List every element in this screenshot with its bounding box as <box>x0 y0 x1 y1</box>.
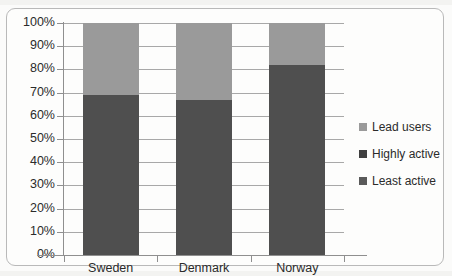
y-axis-tick <box>57 162 64 163</box>
segment-active-users <box>83 95 139 255</box>
segment-lead-users <box>269 23 325 65</box>
legend-item: Highly active <box>359 140 452 167</box>
legend-label-lead-users: Lead users <box>372 120 431 134</box>
y-axis-tick-label: 50% <box>9 132 55 145</box>
y-axis-tick <box>57 69 64 70</box>
bar-sweden <box>83 23 139 255</box>
y-axis-tick-label: 40% <box>9 155 55 168</box>
y-axis-tick-label: 60% <box>9 109 55 122</box>
y-axis-tick <box>57 139 64 140</box>
segment-active-users <box>176 100 232 255</box>
y-axis-tick <box>57 46 64 47</box>
y-axis-tick <box>57 232 64 233</box>
scan-artifact-top <box>0 0 452 5</box>
chart-page: 0%10%20%30%40%50%60%70%80%90%100% Sweden… <box>0 0 452 276</box>
x-axis-label-norway: Norway <box>242 262 352 276</box>
x-axis-tick <box>251 256 252 262</box>
y-axis-tick <box>57 93 64 94</box>
x-axis-tick <box>64 256 65 262</box>
chart-legend: Lead users Highly active Least active <box>359 113 452 194</box>
chart-frame: 0%10%20%30%40%50%60%70%80%90%100% Sweden… <box>6 8 444 266</box>
legend-label-least-active: Least active <box>372 174 436 188</box>
segment-lead-users <box>83 23 139 95</box>
y-axis-tick-label: 80% <box>9 62 55 75</box>
legend-swatch-highly-active <box>359 150 367 158</box>
legend-item: Lead users <box>359 113 452 140</box>
x-axis-line <box>37 255 367 256</box>
bar-norway <box>269 23 325 255</box>
y-axis-tick-label: 30% <box>9 178 55 191</box>
y-axis-tick <box>57 255 64 256</box>
x-axis-tick <box>344 256 345 262</box>
y-axis-tick <box>57 116 64 117</box>
legend-label-highly-active: Highly active <box>372 147 440 161</box>
segment-lead-users <box>176 23 232 100</box>
x-axis-tick <box>157 256 158 262</box>
y-axis-tick-label: 100% <box>9 16 55 29</box>
legend-swatch-least-active <box>359 177 367 185</box>
legend-swatch-lead-users <box>359 123 367 131</box>
bar-denmark <box>176 23 232 255</box>
y-axis-tick <box>57 23 64 24</box>
y-axis-tick-label: 10% <box>9 225 55 238</box>
y-axis-tick <box>57 185 64 186</box>
y-axis-tick-label: 70% <box>9 86 55 99</box>
legend-item: Least active <box>359 167 452 194</box>
y-axis-labels: 0%10%20%30%40%50%60%70%80%90%100% <box>7 9 55 276</box>
y-axis-tick-label: 20% <box>9 202 55 215</box>
y-axis-tick <box>57 209 64 210</box>
plot-area <box>64 23 344 255</box>
y-axis-tick-label: 90% <box>9 39 55 52</box>
segment-active-users <box>269 65 325 255</box>
